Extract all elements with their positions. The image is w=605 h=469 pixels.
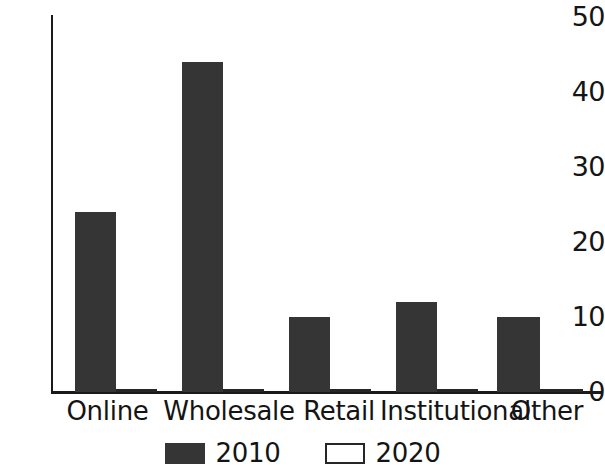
legend-swatch-icon bbox=[325, 443, 365, 464]
bar-institutional-2020 bbox=[437, 389, 478, 392]
legend-item-label: 2010 bbox=[216, 440, 281, 466]
bar-other-2010 bbox=[497, 317, 540, 392]
bar-online-2010 bbox=[75, 212, 116, 392]
bar-chart: 50 40 30 20 10 0 Online Wholesale Retail… bbox=[0, 0, 605, 469]
legend-item-2020[interactable]: 2020 bbox=[325, 440, 441, 466]
bar-institutional-2010 bbox=[396, 302, 437, 392]
x-axis-category-label: Other bbox=[497, 397, 597, 425]
bar-other-2020 bbox=[540, 389, 583, 392]
bar-retail-2010 bbox=[289, 317, 330, 392]
x-axis-category-label: Retail bbox=[289, 397, 389, 425]
chart-legend: 2010 2020 bbox=[0, 437, 605, 469]
legend-swatch-icon bbox=[165, 443, 205, 464]
x-axis-category-label: Wholesale bbox=[158, 397, 300, 425]
legend-item-label: 2020 bbox=[376, 440, 441, 466]
bar-online-2020 bbox=[116, 389, 157, 392]
bar-retail-2020 bbox=[330, 389, 371, 392]
legend-item-2010[interactable]: 2010 bbox=[165, 440, 281, 466]
plot-area bbox=[52, 17, 605, 392]
bar-wholesale-2020 bbox=[223, 389, 264, 392]
bar-wholesale-2010 bbox=[182, 62, 223, 392]
x-axis-category-label: Online bbox=[55, 397, 160, 425]
